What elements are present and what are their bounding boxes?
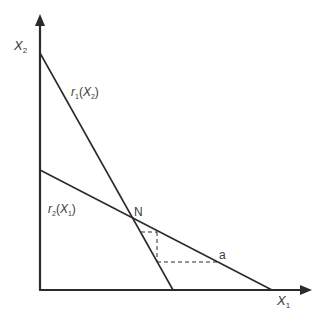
y-axis-arrow-icon bbox=[35, 14, 45, 26]
y-axis-label: X2 bbox=[13, 38, 28, 55]
point-label-a: a bbox=[219, 248, 226, 262]
x-axis-label: X1 bbox=[276, 293, 291, 310]
reaction-curve-r1 bbox=[40, 53, 173, 290]
reaction-function-diagram: X2 X1 r1(X2) r2(X1) N a bbox=[0, 0, 333, 327]
y-axis bbox=[35, 14, 45, 290]
reaction-curve-r2 bbox=[40, 170, 272, 290]
r2-label: r2(X1) bbox=[48, 202, 76, 217]
adjustment-path bbox=[141, 232, 218, 262]
r1-label: r1(X2) bbox=[71, 85, 99, 100]
x-axis-arrow-icon bbox=[300, 285, 312, 295]
intersection-label-N: N bbox=[134, 205, 143, 219]
